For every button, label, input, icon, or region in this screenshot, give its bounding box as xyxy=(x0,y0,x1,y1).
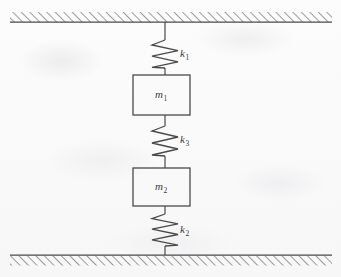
spring-k3-label: k3 xyxy=(180,134,189,145)
spring-k2-coils xyxy=(152,214,178,246)
spring-k1-label: k1 xyxy=(180,48,189,59)
spring-k3 xyxy=(152,115,178,168)
floor-hatching xyxy=(10,256,332,266)
ceiling-support xyxy=(10,12,332,22)
ceiling-hatching xyxy=(10,12,332,22)
floor-support xyxy=(10,255,332,265)
spring-k1-coils xyxy=(152,40,178,68)
spring-k3-coils xyxy=(152,126,178,156)
diagram-canvas xyxy=(0,0,341,277)
mass-m2-label: m2 xyxy=(155,181,167,192)
spring-k2 xyxy=(152,206,178,255)
mass-m1-label: m1 xyxy=(155,89,167,100)
spring-k1 xyxy=(152,22,178,75)
spring-mass-figure: k1 m1 k3 m2 k2 xyxy=(0,0,341,277)
spring-k2-label: k2 xyxy=(180,224,189,235)
